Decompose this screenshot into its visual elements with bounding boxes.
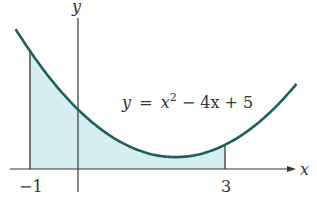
x-axis-label: x: [300, 160, 309, 179]
y-axis-label: y: [71, 0, 82, 16]
equation-label: y = x2 − 4x + 5: [121, 91, 253, 112]
tick-label-3: 3: [221, 177, 231, 196]
tick-label-minus-1: −1: [19, 177, 43, 196]
area-under-curve-diagram: y x −1 3 y = x2 − 4x + 5: [0, 0, 317, 204]
x-axis-arrow-icon: [287, 166, 296, 172]
